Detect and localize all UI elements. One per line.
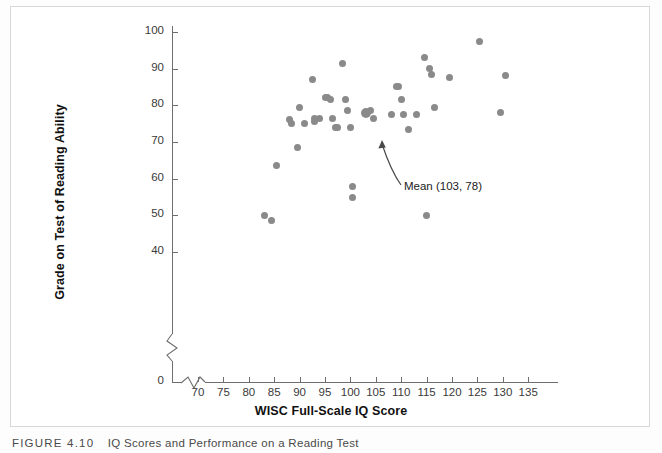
y-axis-break-icon — [167, 334, 177, 361]
x-axis-tick — [300, 377, 301, 382]
data-point — [370, 115, 377, 122]
data-point — [428, 71, 435, 78]
y-axis-tick-label: 70 — [138, 134, 164, 146]
data-point — [309, 76, 316, 83]
y-axis-line-origin-stub — [172, 361, 173, 382]
y-axis-tick-label: 60 — [138, 171, 164, 183]
data-point — [349, 194, 356, 201]
data-point — [476, 38, 483, 45]
y-axis-tick — [173, 69, 178, 70]
x-axis-line — [205, 382, 558, 383]
mean-annotation-label: Mean (103, 78) — [404, 180, 482, 192]
data-point — [273, 162, 280, 169]
data-point — [502, 72, 509, 79]
data-point — [268, 217, 275, 224]
data-point — [344, 107, 351, 114]
y-axis-tick-label: 100 — [138, 24, 164, 36]
data-point — [296, 104, 303, 111]
y-axis-line — [172, 26, 173, 334]
data-point — [349, 183, 356, 190]
figure-caption-text: IQ Scores and Performance on a Reading T… — [108, 437, 359, 449]
y-axis-title: Grade on Test of Reading Ability — [53, 82, 67, 322]
data-point — [288, 120, 295, 127]
data-point — [446, 74, 453, 81]
data-point — [395, 83, 402, 90]
x-axis-tick — [503, 377, 504, 382]
x-axis-tick — [274, 377, 275, 382]
data-point — [334, 124, 341, 131]
y-axis-tick-label: 40 — [138, 244, 164, 256]
y-axis-tick-label: 80 — [138, 97, 164, 109]
data-point — [423, 212, 430, 219]
y-axis-tick — [173, 252, 178, 253]
data-point — [388, 111, 395, 118]
x-axis-tick — [249, 377, 250, 382]
x-axis-tick — [376, 377, 377, 382]
data-point — [327, 96, 334, 103]
mean-annotation-arrowhead — [378, 140, 385, 148]
x-axis-tick — [477, 377, 478, 382]
x-axis-tick — [198, 377, 199, 382]
data-point — [405, 126, 412, 133]
data-point — [329, 115, 336, 122]
data-point — [339, 60, 346, 67]
x-axis-line-origin-stub — [172, 382, 182, 383]
figure-caption: FIGURE 4.10 IQ Scores and Performance on… — [12, 437, 652, 453]
y-axis-tick — [173, 179, 178, 180]
data-point — [367, 107, 374, 114]
y-axis-tick — [173, 32, 178, 33]
x-axis-tick — [401, 377, 402, 382]
data-point — [316, 115, 323, 122]
y-axis-tick — [173, 215, 178, 216]
data-point — [497, 109, 504, 116]
data-point — [342, 96, 349, 103]
y-axis-origin-label: 0 — [138, 374, 164, 386]
data-point — [261, 212, 268, 219]
scatter-plot: Mean (103, 78) WISC Full-Scale IQ Score … — [0, 0, 662, 453]
data-point — [413, 111, 420, 118]
x-axis-tick — [427, 377, 428, 382]
x-axis-tick — [223, 377, 224, 382]
data-point — [398, 96, 405, 103]
data-point — [294, 144, 301, 151]
x-axis-title: WISC Full-Scale IQ Score — [0, 404, 662, 418]
data-point — [431, 104, 438, 111]
y-axis-tick — [173, 142, 178, 143]
x-axis-tick — [452, 377, 453, 382]
y-axis-tick-label: 50 — [138, 207, 164, 219]
x-axis-tick — [528, 377, 529, 382]
y-axis-tick — [173, 105, 178, 106]
data-point — [400, 111, 407, 118]
y-axis-tick-label: 90 — [138, 61, 164, 73]
figure-page: Mean (103, 78) WISC Full-Scale IQ Score … — [0, 0, 662, 453]
x-axis-tick — [325, 377, 326, 382]
data-point — [347, 124, 354, 131]
figure-caption-number: FIGURE 4.10 — [12, 437, 94, 449]
mean-annotation-arrow — [382, 144, 401, 185]
data-point — [421, 54, 428, 61]
x-axis-tick-label: 135 — [513, 386, 543, 398]
data-point — [301, 120, 308, 127]
x-axis-tick — [350, 377, 351, 382]
